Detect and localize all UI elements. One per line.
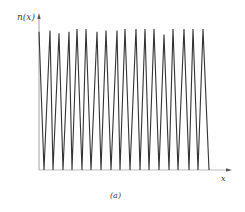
sawtooth-series-line bbox=[39, 29, 209, 170]
figure-caption: (a) bbox=[110, 191, 121, 200]
y-axis-label: n(x) bbox=[17, 12, 35, 22]
y-axis-arrow-icon bbox=[37, 13, 40, 19]
x-axis-label: x bbox=[221, 174, 226, 183]
x-axis-arrow-icon bbox=[226, 168, 232, 171]
chart-figure: n(x) x (a) bbox=[0, 0, 245, 212]
